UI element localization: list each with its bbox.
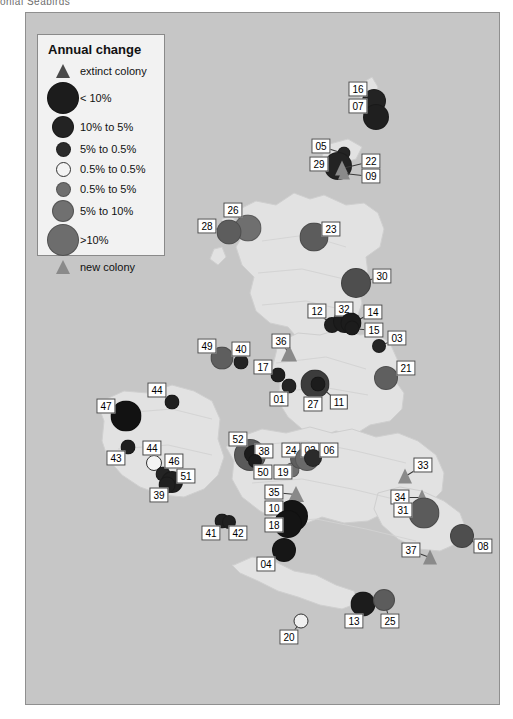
legend-row-label: < 10% [80, 92, 112, 104]
legend-row-label: extinct colony [80, 65, 147, 77]
colony-label-51[interactable]: 51 [176, 469, 195, 484]
circle-small-grey-icon [46, 182, 80, 197]
colony-label-09[interactable]: 09 [361, 169, 380, 184]
colony-label-37[interactable]: 37 [401, 543, 420, 558]
circle-open-icon [46, 162, 80, 177]
colony-label-43[interactable]: 43 [106, 451, 125, 466]
triangle-extinct-icon [46, 64, 80, 78]
circle-large-grey-icon [46, 224, 80, 256]
colony-label-11[interactable]: 11 [330, 395, 348, 410]
colony-label-52[interactable]: 52 [228, 432, 247, 447]
colony-marker-circle[interactable] [374, 366, 398, 390]
colony-marker-circle[interactable] [341, 268, 371, 298]
circle-mid-grey-icon [46, 200, 80, 222]
colony-label-31[interactable]: 31 [393, 503, 412, 518]
colony-label-08[interactable]: 08 [473, 539, 492, 554]
colony-label-39[interactable]: 39 [149, 488, 168, 503]
colony-marker-triangle[interactable] [398, 469, 412, 484]
colony-marker-circle[interactable] [373, 589, 395, 611]
circle-large-dark-icon [46, 82, 80, 114]
colony-label-47[interactable]: 47 [96, 399, 115, 414]
colony-label-30[interactable]: 30 [372, 269, 391, 284]
legend-row-label: 0.5% to 0.5% [80, 163, 145, 175]
legend-title: Annual change [48, 42, 156, 57]
colony-label-15[interactable]: 15 [364, 323, 383, 338]
colony-label-46[interactable]: 46 [164, 454, 183, 469]
colony-label-27[interactable]: 27 [303, 397, 322, 412]
legend-row-label: new colony [80, 261, 135, 273]
colony-label-42[interactable]: 42 [228, 526, 247, 541]
legend-row-increase-5-to-10: 5% to 10% [46, 199, 156, 223]
triangle-new-icon [46, 260, 80, 274]
circle-mid-dark-icon [46, 116, 80, 138]
colony-label-12[interactable]: 12 [307, 304, 326, 319]
colony-label-25[interactable]: 25 [380, 614, 399, 629]
legend-row-label: 5% to 0.5% [80, 143, 136, 155]
colony-marker-circle[interactable] [272, 538, 296, 562]
legend-row-decline-10-to-5: 10% to 5% [46, 115, 156, 139]
colony-marker-circle[interactable] [294, 614, 309, 629]
legend-row-label: 0.5% to 5% [80, 183, 136, 195]
colony-label-50[interactable]: 50 [253, 465, 272, 480]
colony-marker-circle[interactable] [217, 220, 242, 245]
colony-marker-circle[interactable] [345, 321, 360, 336]
colony-label-19[interactable]: 19 [273, 465, 292, 480]
legend-row-increase-05-to-5: 0.5% to 5% [46, 179, 156, 199]
colony-label-35[interactable]: 35 [264, 485, 283, 500]
legend-row-extinct-colony: extinct colony [46, 61, 156, 81]
colony-marker-circle[interactable] [311, 377, 326, 392]
colony-label-16[interactable]: 16 [348, 82, 367, 97]
colony-label-05[interactable]: 05 [311, 139, 330, 154]
colony-label-03[interactable]: 03 [387, 331, 406, 346]
colony-label-41[interactable]: 41 [201, 526, 220, 541]
clipped-caption: onial Seabirds [0, 0, 200, 8]
legend-row-new-colony: new colony [46, 257, 156, 277]
colony-marker-triangle[interactable] [338, 167, 350, 180]
colony-marker-circle[interactable] [450, 524, 474, 548]
colony-marker-triangle[interactable] [423, 550, 437, 565]
colony-label-07[interactable]: 07 [348, 99, 367, 114]
colony-label-33[interactable]: 33 [413, 458, 432, 473]
circle-small-dark-icon [46, 142, 80, 157]
colony-marker-circle[interactable] [409, 498, 440, 529]
colony-label-14[interactable]: 14 [363, 305, 382, 320]
colony-label-26[interactable]: 26 [223, 203, 242, 218]
colony-label-20[interactable]: 20 [279, 630, 298, 645]
map-figure: Annual change extinct colony < 10% 10% t… [25, 12, 500, 705]
colony-label-49[interactable]: 49 [197, 339, 216, 354]
legend-panel: Annual change extinct colony < 10% 10% t… [37, 34, 165, 256]
colony-label-06[interactable]: 06 [319, 443, 338, 458]
colony-label-21[interactable]: 21 [396, 361, 415, 376]
colony-label-01[interactable]: 01 [269, 392, 288, 407]
colony-label-13[interactable]: 13 [344, 614, 363, 629]
colony-marker-circle[interactable] [372, 339, 386, 353]
legend-row-increase-over-10: >10% [46, 223, 156, 257]
colony-label-29[interactable]: 29 [309, 157, 328, 172]
legend-row-label: 10% to 5% [80, 121, 133, 133]
legend-row-label: >10% [80, 234, 108, 246]
colony-label-22[interactable]: 22 [361, 154, 380, 169]
colony-label-17[interactable]: 17 [253, 360, 272, 375]
legend-row-decline-5-to-05: 5% to 0.5% [46, 139, 156, 159]
colony-label-40[interactable]: 40 [231, 342, 250, 357]
legend-row-stable: 0.5% to 0.5% [46, 159, 156, 179]
colony-label-44[interactable]: 44 [142, 441, 161, 456]
colony-label-44[interactable]: 44 [147, 383, 166, 398]
legend-row-decline-over-10: < 10% [46, 81, 156, 115]
colony-label-23[interactable]: 23 [321, 222, 340, 237]
colony-label-36[interactable]: 36 [271, 334, 290, 349]
colony-label-28[interactable]: 28 [197, 219, 216, 234]
colony-label-18[interactable]: 18 [264, 518, 283, 533]
colony-marker-circle[interactable] [165, 395, 180, 410]
colony-marker-circle[interactable] [234, 355, 249, 370]
legend-row-label: 5% to 10% [80, 205, 133, 217]
colony-label-04[interactable]: 04 [256, 557, 275, 572]
